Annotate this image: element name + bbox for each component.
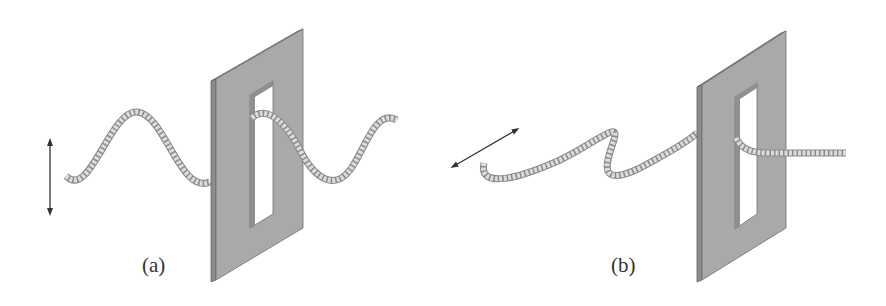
panel-a [50,29,397,282]
diagram-graphics [0,0,886,306]
horizontal-oscillation-arrow-icon [454,130,516,166]
panel-a-label: (a) [142,253,165,278]
panel-b-label: (b) [611,253,636,278]
rope-wave-incident [483,132,697,179]
polarization-diagram: (a) (b) [0,0,886,306]
panel-b [454,31,846,282]
